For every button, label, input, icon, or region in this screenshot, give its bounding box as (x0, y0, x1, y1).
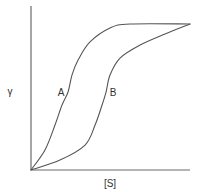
curve-a-label: A (58, 87, 65, 98)
y-axis-label: γ (8, 86, 13, 97)
x-axis-label: [S] (104, 178, 116, 189)
curve-b-label: B (110, 87, 117, 98)
chart: γ [S] A B (0, 0, 200, 192)
